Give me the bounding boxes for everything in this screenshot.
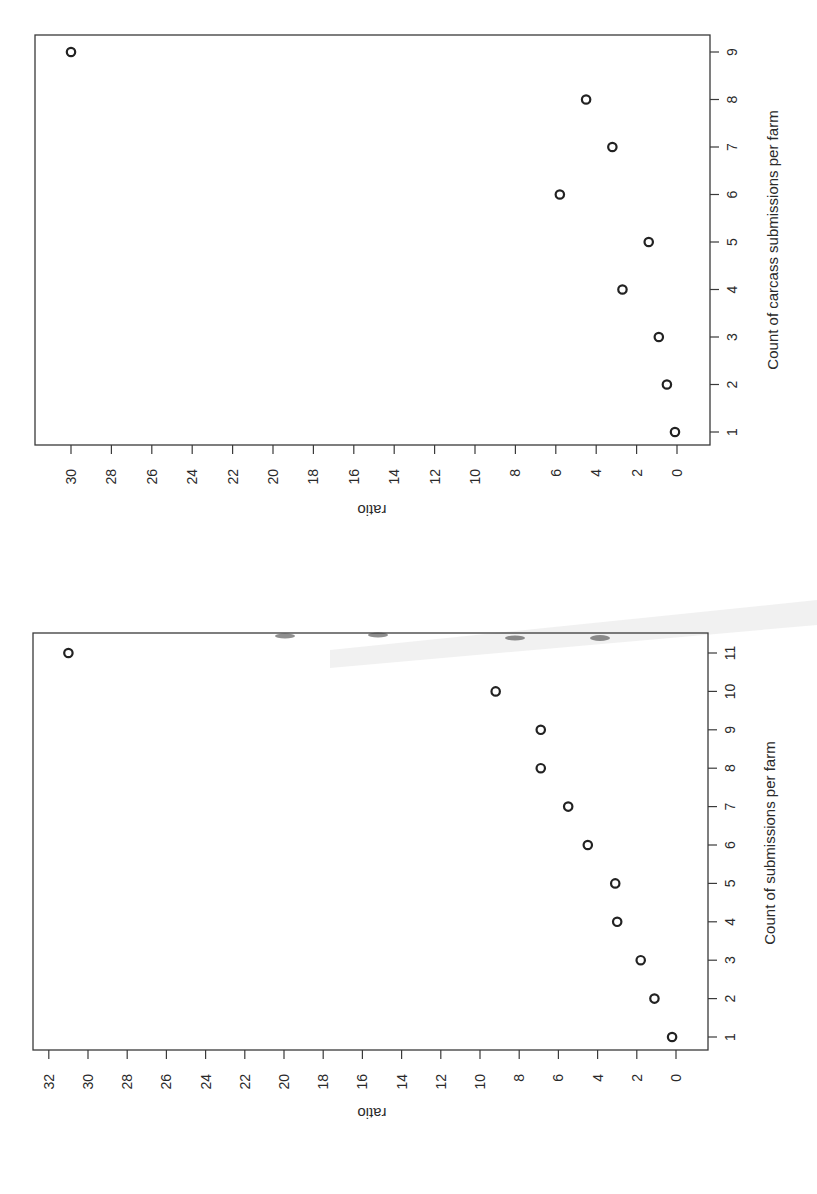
data-point — [613, 918, 621, 926]
data-point — [491, 687, 499, 695]
ratio-tick-label: 6 — [548, 469, 564, 477]
data-point — [671, 428, 679, 436]
ratio-axis-label: ratio — [357, 502, 386, 519]
scan-band — [330, 600, 817, 668]
ratio-tick-label: 2 — [629, 1074, 645, 1082]
count-tick-label: 4 — [722, 918, 738, 926]
count-tick-label: 2 — [722, 994, 738, 1002]
data-point — [611, 879, 619, 887]
ratio-tick-label: 14 — [386, 469, 402, 485]
ratio-tick-label: 20 — [265, 469, 281, 485]
count-tick-label: 8 — [724, 95, 740, 103]
ratio-tick-label: 6 — [550, 1074, 566, 1082]
data-point — [663, 380, 671, 388]
ratio-tick-label: 16 — [346, 469, 362, 485]
count-tick-label: 10 — [722, 683, 738, 699]
count-tick-label: 9 — [724, 48, 740, 56]
ratio-tick-label: 24 — [184, 469, 200, 485]
ratio-tick-label: 2 — [629, 469, 645, 477]
ratio-tick-label: 18 — [315, 1074, 331, 1090]
chart-carcass-submissions: 024681012141618202224262830123456789rati… — [35, 35, 781, 519]
data-point — [584, 841, 592, 849]
ratio-tick-label: 4 — [588, 469, 604, 477]
ratio-tick-label: 0 — [669, 469, 685, 477]
count-tick-label: 7 — [724, 143, 740, 151]
scanned-figure-page: 024681012141618202224262830123456789rati… — [0, 0, 817, 1194]
ratio-tick-label: 22 — [225, 469, 241, 485]
ratio-tick-label: 12 — [427, 469, 443, 485]
ratio-tick-label: 4 — [590, 1074, 606, 1082]
data-point — [556, 190, 564, 198]
data-point — [67, 48, 75, 56]
data-point — [537, 726, 545, 734]
scan-smudge — [275, 634, 295, 639]
data-point — [650, 994, 658, 1002]
data-point — [655, 333, 663, 341]
count-tick-label: 4 — [724, 285, 740, 293]
data-point — [608, 143, 616, 151]
ratio-tick-label: 10 — [472, 1074, 488, 1090]
ratio-tick-label: 8 — [507, 469, 523, 477]
ratio-tick-label: 28 — [119, 1074, 135, 1090]
ratio-tick-label: 26 — [144, 469, 160, 485]
ratio-tick-label: 22 — [237, 1074, 253, 1090]
ratio-tick-label: 18 — [305, 469, 321, 485]
ratio-tick-label: 24 — [198, 1074, 214, 1090]
ratio-tick-label: 32 — [41, 1074, 57, 1090]
ratio-tick-label: 12 — [433, 1074, 449, 1090]
data-point — [582, 95, 590, 103]
data-point — [564, 802, 572, 810]
ratio-tick-label: 28 — [103, 469, 119, 485]
plot-frame — [35, 35, 710, 445]
ratio-tick-label: 10 — [467, 469, 483, 485]
chart-submissions: 0246810121416182022242628303212345678910… — [33, 633, 778, 1122]
count-tick-label: 8 — [722, 764, 738, 772]
data-point — [637, 956, 645, 964]
count-axis-label: Count of carcass submissions per farm — [764, 110, 781, 369]
count-tick-label: 1 — [724, 428, 740, 436]
data-point — [645, 238, 653, 246]
scan-smudge — [590, 635, 610, 641]
ratio-axis-label: ratio — [357, 1105, 386, 1122]
plot-frame — [33, 633, 708, 1050]
count-tick-label: 1 — [722, 1033, 738, 1041]
count-tick-label: 7 — [722, 802, 738, 810]
data-point — [64, 649, 72, 657]
count-tick-label: 11 — [722, 646, 738, 661]
data-point — [618, 285, 626, 293]
count-tick-label: 5 — [724, 238, 740, 246]
count-tick-label: 6 — [724, 190, 740, 198]
ratio-tick-label: 30 — [80, 1074, 96, 1090]
ratio-tick-label: 16 — [354, 1074, 370, 1090]
ratio-tick-label: 30 — [63, 469, 79, 485]
count-tick-label: 9 — [722, 726, 738, 734]
ratio-tick-label: 0 — [668, 1074, 684, 1082]
count-tick-label: 2 — [724, 380, 740, 388]
data-point — [537, 764, 545, 772]
count-tick-label: 3 — [724, 333, 740, 341]
ratio-tick-label: 20 — [276, 1074, 292, 1090]
ratio-tick-label: 8 — [511, 1074, 527, 1082]
scan-smudge — [505, 636, 525, 641]
count-tick-label: 5 — [722, 879, 738, 887]
ratio-tick-label: 26 — [158, 1074, 174, 1090]
data-point — [668, 1033, 676, 1041]
count-tick-label: 3 — [722, 956, 738, 964]
ratio-tick-label: 14 — [394, 1074, 410, 1090]
count-axis-label: Count of submissions per farm — [761, 741, 778, 944]
count-tick-label: 6 — [722, 841, 738, 849]
